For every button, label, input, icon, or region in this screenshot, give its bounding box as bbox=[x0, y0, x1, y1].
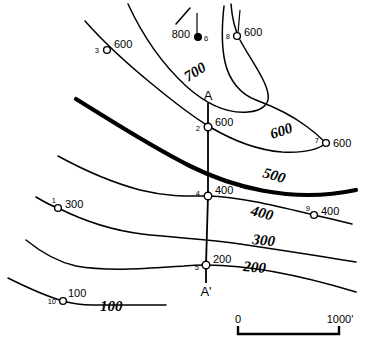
contour-line-100 bbox=[8, 278, 166, 305]
well-10[interactable]: 10 100 bbox=[48, 287, 87, 306]
contour-label-200: 200 bbox=[242, 258, 267, 276]
well-symbol-open-circle[interactable] bbox=[55, 205, 62, 212]
wells-group: 3 600 6 800 8 600 2 600 bbox=[48, 10, 352, 306]
well-8-derrick-leader bbox=[238, 10, 240, 33]
well-9[interactable]: 9 400 bbox=[306, 204, 340, 218]
well-number-label: 7 bbox=[315, 136, 319, 145]
scale-bar-group: 0 1000' bbox=[235, 313, 353, 334]
contour-line-200 bbox=[26, 240, 356, 292]
cross-section-label-a-prime: A' bbox=[200, 284, 211, 299]
well-value-label: 400 bbox=[321, 205, 339, 217]
well-value-label: 200 bbox=[213, 253, 231, 265]
contour-line-400 bbox=[58, 156, 352, 224]
contour-line-500-index bbox=[76, 99, 356, 195]
well-value-label: 800 bbox=[172, 28, 190, 40]
well-symbol-open-circle[interactable] bbox=[60, 298, 67, 305]
well-symbol-open-circle[interactable] bbox=[323, 140, 330, 147]
contour-label-300: 300 bbox=[251, 231, 277, 249]
well-symbol-open-circle[interactable] bbox=[104, 47, 111, 54]
well-value-label: 600 bbox=[244, 26, 262, 38]
cross-section-label-a: A bbox=[204, 88, 213, 103]
well-value-label: 300 bbox=[65, 198, 83, 210]
well-value-label: 600 bbox=[215, 116, 233, 128]
well-number-label: 10 bbox=[48, 297, 56, 306]
well-5[interactable]: 5 200 bbox=[195, 253, 232, 272]
well-value-label: 600 bbox=[333, 137, 351, 149]
contour-label-100: 100 bbox=[100, 298, 123, 314]
well-number-label: 2 bbox=[196, 124, 200, 133]
contour-line-600-inner bbox=[222, 6, 326, 143]
well-value-label: 100 bbox=[68, 287, 86, 299]
contour-lines-group bbox=[8, 4, 356, 305]
contour-label-700: 700 bbox=[181, 59, 209, 85]
well-value-label: 600 bbox=[114, 38, 132, 50]
well-3[interactable]: 3 600 bbox=[95, 38, 133, 55]
well-symbol-open-circle[interactable] bbox=[311, 212, 318, 219]
scale-label-zero: 0 bbox=[235, 313, 241, 325]
well-number-label: 9 bbox=[306, 204, 310, 213]
well-1[interactable]: 1 300 bbox=[52, 196, 84, 211]
well-symbol-filled-circle[interactable] bbox=[195, 34, 202, 41]
well-number-label: 8 bbox=[226, 32, 230, 41]
well-6[interactable]: 6 800 bbox=[172, 13, 209, 43]
contour-line-800 bbox=[176, 8, 190, 24]
well-symbol-open-circle[interactable] bbox=[204, 192, 212, 200]
scale-bar-rule bbox=[238, 326, 339, 334]
well-number-label: 4 bbox=[196, 189, 200, 198]
well-number-label: 3 bbox=[95, 46, 99, 55]
well-symbol-open-circle[interactable] bbox=[234, 33, 241, 40]
map-canvas: A A' 3 600 6 800 8 600 bbox=[0, 0, 365, 342]
well-number-label: 6 bbox=[204, 34, 208, 43]
well-8[interactable]: 8 600 bbox=[226, 10, 263, 41]
well-symbol-open-circle[interactable] bbox=[204, 123, 212, 131]
well-number-label: 5 bbox=[195, 263, 199, 272]
contour-label-600: 600 bbox=[268, 120, 295, 142]
scale-label-max: 1000' bbox=[327, 313, 354, 325]
structure-contour-map-figure: A A' 3 600 6 800 8 600 bbox=[0, 0, 365, 342]
contour-label-500: 500 bbox=[261, 165, 288, 187]
well-symbol-open-circle[interactable] bbox=[202, 261, 210, 269]
well-value-label: 400 bbox=[215, 184, 233, 196]
well-number-label: 1 bbox=[52, 196, 56, 205]
